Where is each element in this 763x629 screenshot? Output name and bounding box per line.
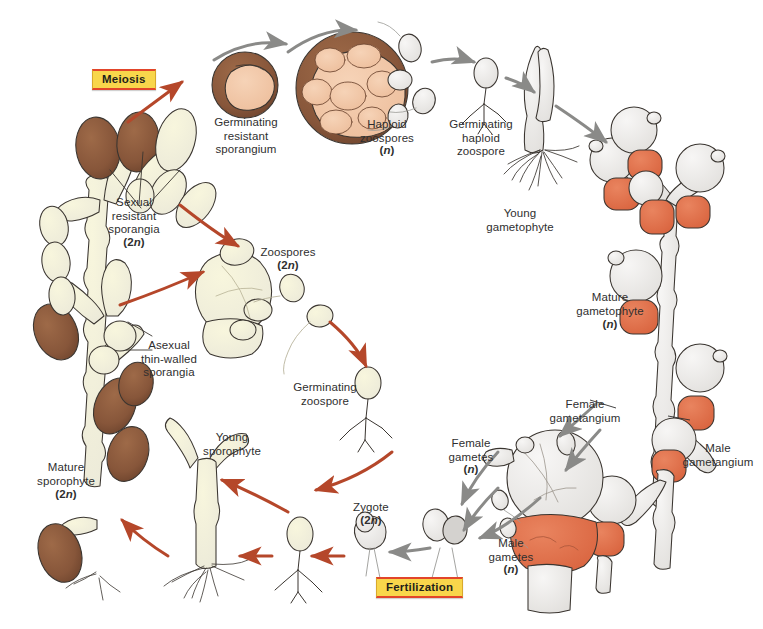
mature-gametophyte-art [588, 107, 727, 593]
germinating-zygote-art [275, 517, 322, 603]
life-cycle-diagram: Meiosis Fertilization Germinating resist… [0, 0, 763, 629]
label-zoospores: Zoospores [248, 246, 328, 260]
phase-box-meiosis: Meiosis [92, 69, 156, 90]
label-asexual-thin-walled-sporangia: Asexual thin-walled sporangia [126, 339, 212, 380]
label-young-sporophyte: Young sporophyte [194, 431, 270, 458]
label-female-gametangium: Female gametangium [536, 398, 634, 425]
label-young-gametophyte: Young gametophyte [472, 207, 568, 234]
label-germinating-zoospore: Germinating zoospore [282, 381, 368, 408]
fusing-gametes-art [420, 507, 468, 580]
label-female-gametes: Female gametes [436, 437, 506, 464]
label-sexual-resistant-sporangia: Sexual resistant sporangia [94, 196, 174, 237]
label-male-gametes: Male gametes [478, 537, 544, 564]
label-germinating-resistant-sporangium: Germinating resistant sporangium [196, 116, 296, 157]
label-zoospores-ploidy: (2n) [248, 259, 328, 273]
label-mature-sporophyte: Mature sporophyte [20, 461, 112, 488]
label-haploid-zoospores-ploidy: (n) [348, 144, 426, 158]
label-male-gametangium: Male gametangium [672, 442, 763, 469]
label-female-gametes-ploidy: (n) [436, 463, 506, 477]
label-mature-gametophyte-ploidy: (n) [560, 318, 660, 332]
label-zygote: Zygote [338, 501, 404, 515]
label-mature-gametophyte: Mature gametophyte [560, 291, 660, 318]
label-haploid-zoospores: Haploid zoospores [348, 118, 426, 145]
label-male-gametes-ploidy: (n) [478, 563, 544, 577]
germinating-zoospore-art [340, 367, 392, 452]
label-sexual-resistant-sporangia-ploidy: (2n) [94, 236, 174, 250]
label-mature-sporophyte-ploidy: (2n) [20, 488, 112, 502]
phase-box-fertilization: Fertilization [376, 577, 463, 598]
germinating-resistant-sporangium-art [212, 52, 278, 118]
label-zygote-ploidy: (2n) [338, 514, 404, 528]
label-germinating-haploid-zoospore: Germinating haploid zoospore [438, 118, 524, 159]
